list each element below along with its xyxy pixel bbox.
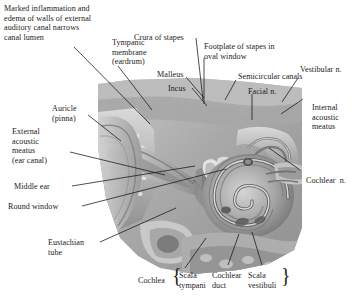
label-incus: Incus [168, 84, 186, 94]
label-round-window: Round window [8, 202, 58, 212]
label-internal-acoustic-meatus: Internal acoustic meatus [312, 103, 339, 132]
label-eustachian-tube: Eustachian tube [48, 238, 84, 257]
label-malleus: Malleus [157, 70, 183, 80]
figure-canvas: Marked inflammation and edema of walls o… [0, 0, 356, 298]
label-marked-inflammation: Marked inflammation and edema of walls o… [4, 4, 91, 42]
ear-cross-section-image [98, 78, 302, 278]
label-crura-of-stapes: Crura of stapes [134, 33, 184, 43]
label-auricle-pinna: Auricle (pinna) [52, 104, 77, 123]
label-cochlea: Cochlea [138, 276, 165, 286]
label-footplate-of-stapes: Footplate of stapes in oval window [204, 42, 275, 61]
label-external-acoustic-meatus: External acoustic meatus (ear canal) [12, 127, 47, 165]
label-semicircular-canals: Semicircular canals [238, 72, 303, 82]
label-scala-vestibuli: Scala vestibuli [248, 271, 276, 290]
label-cochlear-n: Cochlear n. [306, 176, 346, 186]
label-vestibular-n: Vestibular n. [300, 65, 342, 75]
label-facial-n: Facial n. [248, 87, 276, 97]
label-scala-tympani: Scala tympani [179, 271, 206, 290]
brace-close: } [281, 265, 291, 285]
label-cochlear-duct: Cochlear duct [212, 271, 242, 290]
label-middle-ear: Middle ear [14, 182, 50, 192]
